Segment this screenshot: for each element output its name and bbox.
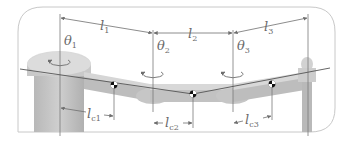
link-3-body <box>233 72 305 102</box>
label-theta3: θ3 <box>237 38 250 55</box>
label-lc3: lc3 <box>245 112 259 129</box>
label-l3: l3 <box>264 19 273 36</box>
label-lc1: lc1 <box>87 106 101 123</box>
label-theta2: θ2 <box>157 38 170 55</box>
label-lc2: lc2 <box>165 115 179 132</box>
end-effector-post <box>298 57 316 132</box>
robot-arm-diagram: l1 l2 l3 θ1 θ2 θ3 <box>0 0 349 144</box>
base-column <box>27 51 91 132</box>
label-l2: l2 <box>188 26 197 43</box>
label-l1: l1 <box>100 18 109 35</box>
label-theta1: θ1 <box>64 33 77 50</box>
